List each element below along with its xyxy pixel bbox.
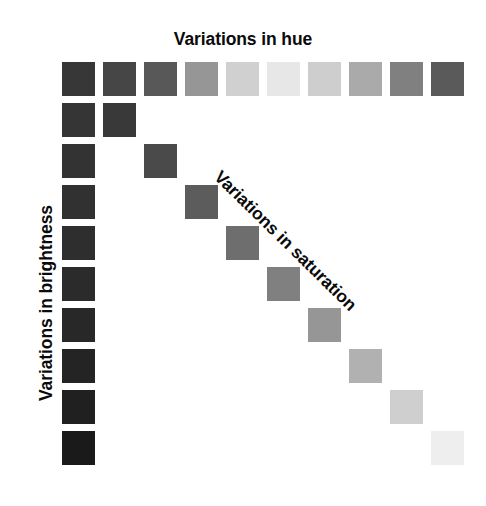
color-swatch: [267, 267, 300, 301]
color-swatch: [308, 308, 341, 342]
color-swatch: [62, 390, 95, 424]
color-variations-figure: Variations in hue Variations in brightne…: [0, 0, 486, 506]
color-swatch: [226, 226, 259, 260]
color-swatch: [390, 390, 423, 424]
color-swatch: [431, 431, 464, 465]
color-swatch: [431, 62, 464, 96]
color-swatch: [62, 62, 95, 96]
color-swatch: [62, 349, 95, 383]
color-swatch: [349, 349, 382, 383]
color-swatch: [103, 62, 136, 96]
color-swatch: [349, 62, 382, 96]
color-swatch: [62, 144, 95, 178]
color-swatch: [62, 308, 95, 342]
color-swatch: [185, 185, 218, 219]
color-swatch: [62, 103, 95, 137]
color-swatch: [185, 62, 218, 96]
hue-axis-label: Variations in hue: [0, 31, 486, 49]
color-swatch: [62, 185, 95, 219]
color-swatch: [390, 62, 423, 96]
color-swatch: [62, 267, 95, 301]
color-swatch: [267, 62, 300, 96]
color-swatch: [62, 431, 95, 465]
color-swatch: [62, 226, 95, 260]
color-swatch: [144, 62, 177, 96]
color-swatch: [308, 62, 341, 96]
color-swatch: [103, 103, 136, 137]
color-swatch: [226, 62, 259, 96]
color-swatch: [144, 144, 177, 178]
brightness-axis-label: Variations in brightness: [38, 205, 56, 401]
